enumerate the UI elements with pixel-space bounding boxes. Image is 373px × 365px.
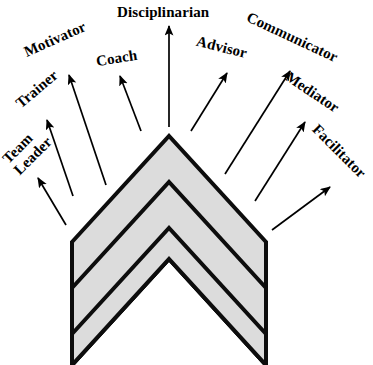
role-label-disciplinarian: Disciplinarian [117, 4, 209, 20]
chevron-roles-diagram: TeamLeaderTrainerMotivatorCoachDisciplin… [0, 0, 373, 365]
arrow-team-leader [38, 178, 66, 225]
arrow-facilitator [272, 187, 330, 230]
arrow-motivator [69, 75, 106, 185]
arrow-trainer [47, 120, 73, 196]
arrow-advisor [191, 73, 227, 131]
arrow-mediator [255, 122, 305, 201]
arrow-communicator [225, 71, 290, 174]
arrow-coach [120, 76, 141, 131]
